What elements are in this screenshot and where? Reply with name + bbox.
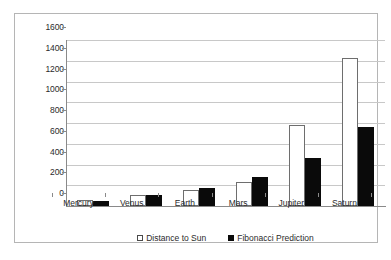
legend-label: Fibonacci Prediction (237, 234, 314, 243)
y-axis-tick-label: 1600 (30, 23, 64, 32)
bar-group (119, 40, 172, 206)
y-axis-tick-label: 1000 (30, 85, 64, 94)
y-axis-tick-label: 1200 (30, 65, 64, 74)
plot-area (66, 40, 385, 206)
x-axis-category-label: Saturn (318, 199, 371, 208)
y-axis-tick-label: 200 (30, 168, 64, 177)
bar-group (172, 40, 225, 206)
x-axis-tick-mark (265, 193, 266, 197)
chart-frame: 02004006008001000120014001600 MercuryVen… (14, 13, 378, 243)
bar-group (66, 40, 119, 206)
y-axis-tick-label: 800 (30, 106, 64, 115)
y-axis-tick-label: 1400 (30, 44, 64, 53)
chart-legend: Distance to Sun Fibonacci Prediction (66, 234, 385, 243)
x-axis-category-label: Mercury (52, 199, 105, 208)
y-axis-line (66, 40, 67, 207)
bar-group (279, 40, 332, 206)
x-axis-category-label: Jupiter (265, 199, 318, 208)
legend-item-distance-to-sun: Distance to Sun (137, 234, 206, 243)
x-axis-category-label: Venus (105, 199, 158, 208)
bar-chart: 02004006008001000120014001600 MercuryVen… (0, 0, 391, 260)
y-axis-tick-label: 600 (30, 127, 64, 136)
y-axis-tick-labels: 02004006008001000120014001600 (28, 14, 64, 242)
white-square-icon (137, 235, 143, 241)
x-axis-tick-mark (105, 193, 106, 197)
bar-group (226, 40, 279, 206)
bar-distance-to-sun (289, 125, 305, 206)
x-axis-tick-mark (371, 193, 372, 197)
x-axis-tick-mark (212, 193, 213, 197)
y-axis-tick-label: 0 (30, 189, 64, 198)
black-square-icon (228, 235, 234, 241)
x-axis-tick-mark (52, 193, 53, 197)
bar-fibonacci-prediction (358, 127, 374, 206)
x-axis-category-label: Mars (212, 199, 265, 208)
x-axis-tick-mark (158, 193, 159, 197)
legend-item-fibonacci-prediction: Fibonacci Prediction (228, 234, 314, 243)
x-axis-tick-mark (318, 193, 319, 197)
x-axis-category-label: Earth (158, 199, 211, 208)
bar-distance-to-sun (342, 58, 358, 206)
y-axis-tick-mark (62, 27, 66, 28)
bar-group (332, 40, 385, 206)
legend-label: Distance to Sun (146, 234, 206, 243)
y-axis-tick-label: 400 (30, 148, 64, 157)
